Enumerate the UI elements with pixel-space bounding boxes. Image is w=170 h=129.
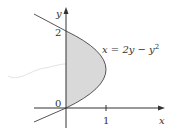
- equation-text: x = 2y − y: [102, 44, 155, 55]
- y-axis-label: y: [55, 8, 62, 19]
- equation-exponent: 2: [155, 43, 159, 51]
- equation-label: x = 2y − y2: [102, 43, 159, 55]
- region-diagram: y x 2 0 1 x = 2y − y2: [0, 0, 170, 129]
- background-artifact: [8, 64, 66, 78]
- tick-label-x-1: 1: [103, 115, 109, 126]
- x-axis-arrow-icon: [158, 106, 165, 111]
- y-axis-arrow-icon: [64, 7, 69, 14]
- tick-label-origin: 0: [55, 98, 61, 109]
- tick-label-y-2: 2: [55, 27, 61, 38]
- x-axis-label: x: [159, 115, 165, 126]
